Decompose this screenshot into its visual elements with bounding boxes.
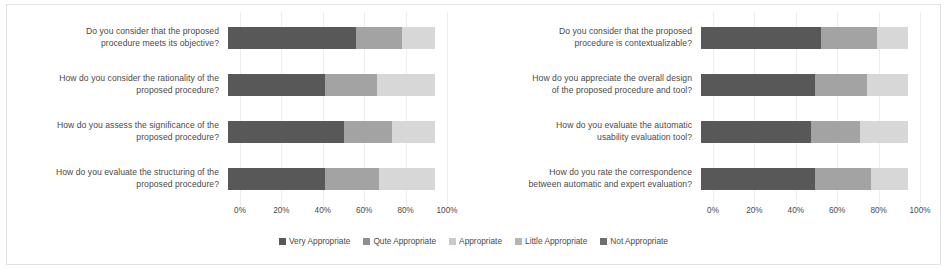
- bar-segment: [228, 168, 325, 190]
- bar-segment: [871, 168, 908, 190]
- bar-segment: [701, 121, 811, 143]
- bar-segment: [821, 27, 877, 49]
- question-label: How do you evaluate the structuring of t…: [0, 167, 228, 190]
- question-label: How do you evaluate the automaticusabili…: [473, 120, 701, 143]
- chart-row: How do you appreciate the overall design…: [473, 61, 946, 108]
- x-axis-tick-label: 80%: [397, 206, 413, 215]
- x-axis-tick-label: 0%: [234, 206, 246, 215]
- question-label-line: How do you evaluate the automatic: [473, 120, 692, 132]
- left-stacked-bar-chart: Do you consider that the proposedprocedu…: [0, 0, 473, 232]
- question-label-line: usability evaluation tool?: [473, 132, 692, 144]
- question-label: Do you consider that the proposedprocedu…: [473, 26, 701, 49]
- question-label-line: Do you consider that the proposed: [473, 26, 692, 38]
- legend-label: Little Appropriate: [525, 236, 587, 246]
- bar-segment: [701, 168, 815, 190]
- stacked-bar: [701, 121, 908, 143]
- question-label-line: How do you assess the significance of th…: [0, 120, 219, 132]
- bar-segment: [815, 168, 871, 190]
- bar-segment: [392, 121, 435, 143]
- question-label-line: procedure meets its objective?: [0, 38, 219, 50]
- stacked-bar: [228, 27, 435, 49]
- question-label: How do you consider the rationality of t…: [0, 73, 228, 96]
- right-chart-rows: Do you consider that the proposedprocedu…: [473, 14, 946, 202]
- question-label-line: How do you evaluate the structuring of t…: [0, 167, 219, 179]
- x-axis-tick-label: 40%: [788, 206, 804, 215]
- right-stacked-bar-chart: Do you consider that the proposedprocedu…: [473, 0, 946, 232]
- left-chart-rows: Do you consider that the proposedprocedu…: [0, 14, 473, 202]
- question-label-line: procedure is contextualizable?: [473, 38, 692, 50]
- x-axis-tick-label: 20%: [746, 206, 762, 215]
- bar-segment: [228, 74, 325, 96]
- stacked-bar: [701, 168, 908, 190]
- stacked-bar: [228, 121, 435, 143]
- stacked-bar: [228, 168, 435, 190]
- chart-row: Do you consider that the proposedprocedu…: [473, 14, 946, 61]
- chart-row: How do you evaluate the structuring of t…: [0, 155, 473, 202]
- chart-row: How do you assess the significance of th…: [0, 108, 473, 155]
- question-label: How do you assess the significance of th…: [0, 120, 228, 143]
- stacked-bar: [701, 27, 908, 49]
- bar-segment: [379, 168, 435, 190]
- question-label: Do you consider that the proposedprocedu…: [0, 26, 228, 49]
- legend-swatch-icon: [363, 238, 370, 245]
- legend-label: Very Appropriate: [289, 236, 350, 246]
- bar-segment: [325, 168, 379, 190]
- legend-item[interactable]: Qute Appropriate: [363, 236, 436, 246]
- legend-item[interactable]: Not Appropriate: [600, 236, 668, 246]
- stacked-bar-charts-row: Do you consider that the proposedprocedu…: [0, 0, 947, 232]
- bar-segment: [228, 121, 344, 143]
- question-label-line: Do you consider that the proposed: [0, 26, 219, 38]
- question-label-line: of the proposed procedure and tool?: [473, 85, 692, 97]
- x-axis-tick-label: 60%: [829, 206, 845, 215]
- legend-swatch-icon: [279, 238, 286, 245]
- legend-swatch-icon: [600, 238, 607, 245]
- bar-segment: [811, 121, 861, 143]
- right-chart-x-axis: 0%20%40%60%80%100%: [713, 206, 920, 222]
- question-label-line: proposed procedure?: [0, 179, 219, 191]
- bar-segment: [325, 74, 377, 96]
- left-chart-x-axis: 0%20%40%60%80%100%: [240, 206, 447, 222]
- bar-segment: [228, 27, 356, 49]
- question-label-line: How do you appreciate the overall design: [473, 73, 692, 85]
- question-label: How do you appreciate the overall design…: [473, 73, 701, 96]
- x-axis-tick-label: 20%: [273, 206, 289, 215]
- x-axis-tick-label: 100%: [910, 206, 931, 215]
- question-label-line: between automatic and expert evaluation?: [473, 179, 692, 191]
- legend-item[interactable]: Very Appropriate: [279, 236, 350, 246]
- question-label-line: proposed procedure?: [0, 132, 219, 144]
- legend-item[interactable]: Appropriate: [449, 236, 502, 246]
- bar-segment: [867, 74, 908, 96]
- legend-item[interactable]: Little Appropriate: [515, 236, 587, 246]
- bar-segment: [877, 27, 908, 49]
- legend-swatch-icon: [449, 238, 456, 245]
- bar-segment: [815, 74, 867, 96]
- legend-label: Qute Appropriate: [373, 236, 436, 246]
- stacked-bar: [701, 74, 908, 96]
- bar-segment: [402, 27, 435, 49]
- question-label-line: How do you rate the correspondence: [473, 167, 692, 179]
- x-axis-tick-label: 60%: [356, 206, 372, 215]
- chart-row: Do you consider that the proposedprocedu…: [0, 14, 473, 61]
- legend-label: Not Appropriate: [610, 236, 668, 246]
- bar-segment: [701, 27, 821, 49]
- chart-row: How do you rate the correspondencebetwee…: [473, 155, 946, 202]
- x-axis-tick-label: 40%: [315, 206, 331, 215]
- bar-segment: [356, 27, 402, 49]
- bar-segment: [860, 121, 908, 143]
- legend-swatch-icon: [515, 238, 522, 245]
- bar-segment: [377, 74, 435, 96]
- chart-row: How do you consider the rationality of t…: [0, 61, 473, 108]
- question-label-line: proposed procedure?: [0, 85, 219, 97]
- stacked-bar: [228, 74, 435, 96]
- x-axis-tick-label: 100%: [437, 206, 458, 215]
- x-axis-tick-label: 80%: [870, 206, 886, 215]
- question-label-line: How do you consider the rationality of t…: [0, 73, 219, 85]
- chart-row: How do you evaluate the automaticusabili…: [473, 108, 946, 155]
- x-axis-tick-label: 0%: [707, 206, 719, 215]
- chart-legend: Very AppropriateQute AppropriateAppropri…: [0, 236, 947, 246]
- question-label: How do you rate the correspondencebetwee…: [473, 167, 701, 190]
- bar-segment: [701, 74, 815, 96]
- legend-label: Appropriate: [459, 236, 502, 246]
- bar-segment: [344, 121, 392, 143]
